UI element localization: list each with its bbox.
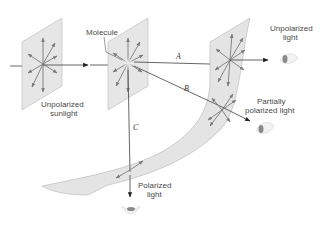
label-partially-polarized-1: Partially — [257, 97, 285, 106]
scattering-diagram: Unpolarized sunlight Molecule A — [0, 0, 320, 234]
panel-molecule: Molecule — [86, 18, 148, 110]
path-label-c: C — [133, 123, 139, 132]
panel-unpolarized-sunlight: Unpolarized sunlight — [22, 18, 88, 118]
path-label-b: B — [184, 84, 189, 93]
label-unpolarized-light-2: light — [283, 33, 298, 42]
label-unpolarized-sunlight-2: sunlight — [50, 109, 78, 118]
label-unpolarized-sunlight-1: Unpolarized — [41, 100, 84, 109]
molecule-icon — [122, 57, 134, 69]
label-polarized-2: light — [147, 190, 162, 199]
label-unpolarized-light-1: Unpolarized — [270, 24, 313, 33]
eye-icon-b — [256, 123, 274, 134]
label-partially-polarized-2: polarized light — [245, 106, 295, 115]
eye-icon-c — [122, 206, 140, 214]
eye-icon-a — [280, 54, 298, 64]
path-label-a: A — [175, 52, 181, 61]
label-polarized-1: Polarized — [138, 181, 171, 190]
label-molecule: Molecule — [86, 28, 119, 37]
